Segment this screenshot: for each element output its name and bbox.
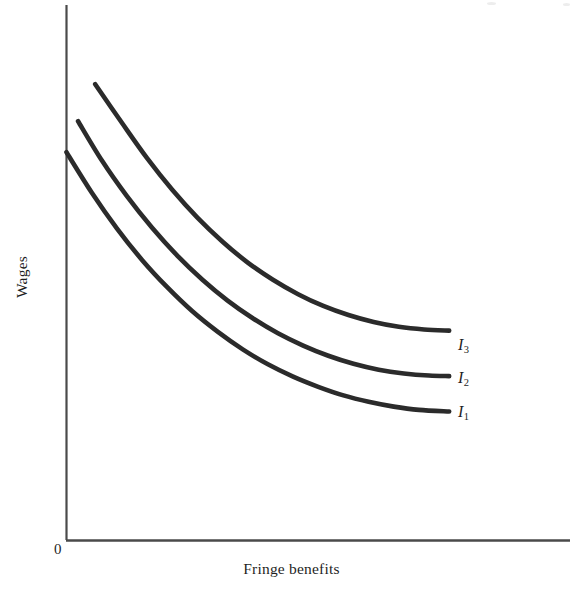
- curve-label-i3-subscript: 3: [464, 344, 469, 355]
- curve-label-i1-base: I: [458, 403, 463, 420]
- chart-canvas: [0, 0, 583, 592]
- scan-artifact: [563, 3, 570, 6]
- y-axis-title: Wages: [13, 255, 31, 299]
- curve-i3: [95, 84, 449, 330]
- curve-label-i3: I3: [458, 337, 469, 353]
- indifference-curve-figure: Wages Fringe benefits 0 I3 I2 I1: [0, 0, 583, 592]
- curve-label-i2: I2: [458, 370, 469, 386]
- scan-artifact: [487, 2, 496, 5]
- origin-label: 0: [54, 541, 62, 558]
- curve-label-i3-base: I: [458, 336, 463, 353]
- curve-label-i2-subscript: 2: [464, 377, 469, 388]
- curve-label-i1: I1: [458, 404, 469, 420]
- x-axis-title: Fringe benefits: [0, 560, 583, 578]
- curve-label-i2-base: I: [458, 369, 463, 386]
- curve-label-i1-subscript: 1: [464, 411, 469, 422]
